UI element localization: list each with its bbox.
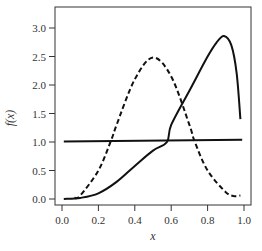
- x-tick-label: 0.0: [55, 214, 69, 226]
- y-tick-label: 3.0: [32, 22, 46, 34]
- y-tick-label: 2.0: [32, 79, 46, 91]
- x-axis-ticks: 0.00.20.40.60.81.0: [55, 205, 251, 226]
- x-axis-label: x: [149, 229, 156, 243]
- y-tick-label: 2.5: [32, 51, 46, 63]
- y-tick-label: 1.0: [32, 136, 46, 148]
- dashed-curve: [75, 58, 241, 199]
- x-tick-label: 0.8: [201, 214, 215, 226]
- x-tick-label: 0.6: [164, 214, 178, 226]
- y-tick-label: 0.0: [32, 193, 46, 205]
- horizontal-line: [64, 140, 242, 142]
- x-tick-label: 0.4: [128, 214, 142, 226]
- solid-curve: [64, 36, 241, 199]
- y-tick-label: 0.5: [32, 165, 46, 177]
- y-tick-label: 1.5: [32, 108, 46, 120]
- x-tick-label: 1.0: [237, 214, 251, 226]
- x-tick-label: 0.2: [92, 214, 106, 226]
- y-axis-label: f(x): [3, 110, 17, 127]
- y-axis-ticks: 0.00.51.01.52.02.53.0: [32, 22, 55, 205]
- chart: 0.00.51.01.52.02.53.0 0.00.20.40.60.81.0…: [0, 0, 262, 251]
- series-group: [64, 36, 242, 199]
